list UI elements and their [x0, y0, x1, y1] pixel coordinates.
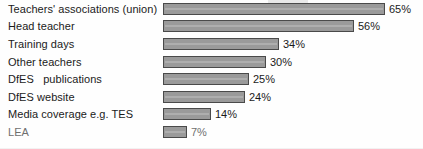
- bar-sheen: [165, 25, 352, 27]
- category-label: Teachers' associations (union): [8, 3, 157, 15]
- category-label: Training days: [8, 38, 74, 50]
- value-label: 14%: [215, 108, 237, 120]
- bar-row: DfES website 24%: [0, 88, 423, 106]
- bar-sheen: [165, 43, 277, 45]
- bar-row: DfES publications 25%: [0, 70, 423, 88]
- bar: [163, 126, 187, 138]
- bar-row: Teachers' associations (union) 65%: [0, 0, 423, 18]
- bar-row: Head teacher 56%: [0, 18, 423, 36]
- bar: [163, 56, 266, 68]
- value-label: 25%: [253, 73, 275, 85]
- category-label: Other teachers: [8, 56, 81, 68]
- bar-row: Other teachers 30%: [0, 53, 423, 71]
- horizontal-bar-chart: Teachers' associations (union) 65% Head …: [0, 0, 423, 149]
- bar: [163, 38, 279, 50]
- bar: [163, 20, 354, 32]
- bottom-edge-rule: [0, 148, 423, 149]
- bar-sheen: [165, 131, 185, 133]
- bar: [163, 73, 249, 85]
- value-label: 56%: [358, 20, 380, 32]
- bar-row: LEA 7%: [0, 123, 423, 141]
- bar: [163, 3, 385, 15]
- bar: [163, 91, 245, 103]
- bar: [163, 108, 211, 120]
- value-label: 24%: [249, 91, 271, 103]
- bar-row: Training days 34%: [0, 35, 423, 53]
- bar-row: Media coverage e.g. TES 14%: [0, 106, 423, 124]
- category-label: LEA: [8, 126, 29, 138]
- category-label: DfES publications: [8, 73, 102, 85]
- chart-rows: Teachers' associations (union) 65% Head …: [0, 0, 423, 141]
- category-label: Media coverage e.g. TES: [8, 108, 133, 120]
- bar-sheen: [165, 8, 383, 10]
- value-label: 30%: [270, 56, 292, 68]
- value-label: 65%: [389, 3, 411, 15]
- bar-sheen: [165, 78, 247, 80]
- bar-sheen: [165, 113, 209, 115]
- value-label: 34%: [283, 38, 305, 50]
- bar-sheen: [165, 61, 264, 63]
- bar-sheen: [165, 96, 243, 98]
- value-label: 7%: [191, 126, 207, 138]
- category-label: Head teacher: [8, 20, 75, 32]
- category-label: DfES website: [8, 91, 75, 103]
